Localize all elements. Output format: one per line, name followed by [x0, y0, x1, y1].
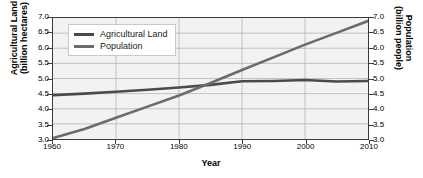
y-axis-left-tickmark	[47, 79, 52, 80]
y-axis-right-tick-label: 5.5	[373, 59, 384, 67]
y-axis-right-tickmark	[369, 32, 374, 33]
y-axis-right-tickmark	[369, 48, 374, 49]
legend-swatch-icon	[74, 33, 94, 36]
y-axis-right-tickmark	[369, 79, 374, 80]
x-axis-tick-label: 1970	[95, 143, 135, 151]
y-axis-left-tickmark	[47, 32, 52, 33]
y-axis-right-tick-label: 4.5	[373, 90, 384, 98]
y-axis-left-tickmark	[47, 94, 52, 95]
y-axis-right-tick-label: 7.0	[373, 13, 384, 21]
legend-item-population: Population	[74, 40, 168, 52]
x-axis-tick-label: 2000	[286, 143, 326, 151]
y-axis-right-tickmark	[369, 63, 374, 64]
y-axis-right-tick-label: 6.0	[373, 44, 384, 52]
y-axis-left-tickmark	[47, 48, 52, 49]
y-axis-right-tickmark	[369, 17, 374, 18]
x-axis-tick-label: 1980	[159, 143, 199, 151]
x-axis-title: Year	[52, 158, 370, 168]
legend-item-agricultural-land: Agricultural Land	[74, 28, 168, 40]
y-axis-right-tick-label: 5.0	[373, 75, 384, 83]
legend-label: Population	[100, 42, 143, 51]
y-axis-right-tickmark	[369, 94, 374, 95]
x-axis-tickmark	[306, 140, 307, 144]
x-axis-tick-label: 1960	[32, 143, 72, 151]
y-axis-right-tickmark	[369, 125, 374, 126]
y-axis-left-tickmark	[47, 125, 52, 126]
chart-legend: Agricultural Land Population	[68, 24, 176, 56]
x-axis-tick-label: 2010	[349, 143, 389, 151]
legend-label: Agricultural Land	[100, 30, 168, 39]
y-axis-right-tickmark	[369, 109, 374, 110]
x-axis-tickmark	[115, 140, 116, 144]
x-axis-tickmark	[52, 140, 53, 144]
y-axis-left-tickmark	[47, 63, 52, 64]
y-axis-right-tick-label: 4.0	[373, 105, 384, 113]
x-axis-tickmark	[242, 140, 243, 144]
x-axis-tickmark	[369, 140, 370, 144]
y-axis-left-tickmark	[47, 109, 52, 110]
y-axis-right-tick-label: 3.5	[373, 121, 384, 129]
x-axis-tickmark	[179, 140, 180, 144]
x-axis-tick-label: 1990	[222, 143, 262, 151]
legend-swatch-icon	[74, 45, 94, 48]
chart-figure: Agricultural Land (billion hectares) Pop…	[0, 0, 423, 178]
y-axis-left-tickmark	[47, 17, 52, 18]
y-axis-right-tick-label: 6.5	[373, 28, 384, 36]
